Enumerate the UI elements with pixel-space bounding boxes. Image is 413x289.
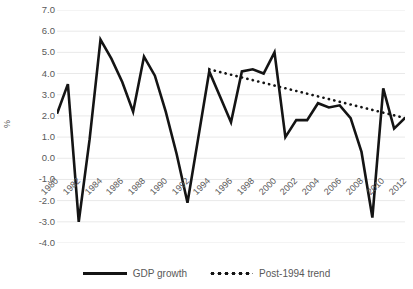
x-axis-tick: 2012 <box>387 176 408 197</box>
x-axis-tick: 2000 <box>256 176 277 197</box>
x-axis-tick: 1986 <box>104 176 125 197</box>
x-axis-tick: 1996 <box>213 176 234 197</box>
solid-line-swatch-icon <box>83 272 127 275</box>
legend-label-post-1994-trend: Post-1994 trend <box>259 268 330 279</box>
x-axis-tick: 1994 <box>191 176 212 197</box>
x-axis-tick: 1980 <box>39 176 60 197</box>
x-axis-tick: 2008 <box>343 176 364 197</box>
x-axis-tick: 1990 <box>148 176 169 197</box>
chart-legend: GDP growth Post-1994 trend <box>0 262 413 284</box>
legend-item-gdp-growth: GDP growth <box>83 268 187 279</box>
dotted-line-swatch-icon <box>209 272 253 275</box>
gdp-growth-chart: % 7.06.05.04.03.02.01.00.0-1.0-2.0-3.0-4… <box>0 0 413 289</box>
x-axis-tick: 1988 <box>126 176 147 197</box>
legend-item-post-1994-trend: Post-1994 trend <box>209 268 330 279</box>
x-axis-tick: 2006 <box>322 176 343 197</box>
x-axis-tick: 2004 <box>300 176 321 197</box>
x-axis-tick-labels: 1980198219841986198819901992199419961998… <box>0 0 413 289</box>
x-axis-tick: 1982 <box>61 176 82 197</box>
x-axis-tick: 1998 <box>235 176 256 197</box>
x-axis-tick: 1984 <box>82 176 103 197</box>
legend-label-gdp-growth: GDP growth <box>133 268 187 279</box>
x-axis-tick: 1992 <box>169 176 190 197</box>
x-axis-tick: 2002 <box>278 176 299 197</box>
x-axis-tick: 2010 <box>365 176 386 197</box>
